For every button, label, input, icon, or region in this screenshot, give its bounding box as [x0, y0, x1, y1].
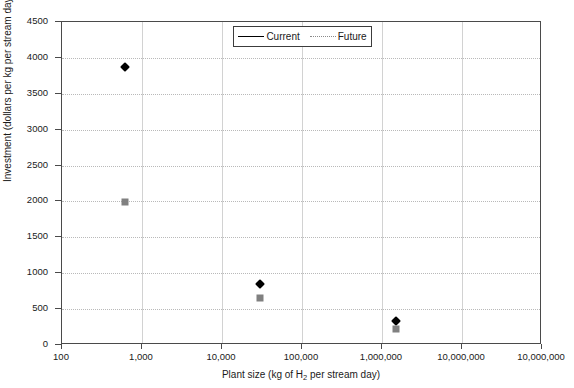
gridline-horizontal: [62, 94, 540, 95]
data-point-future: [393, 326, 400, 333]
data-point-future: [257, 295, 264, 302]
gridline-vertical: [302, 22, 303, 343]
x-axis-title-pre: Plant size (kg of H: [222, 369, 303, 380]
square-marker: [257, 295, 264, 302]
y-tick-label: 1000: [27, 267, 48, 277]
gridline-vertical: [142, 22, 143, 343]
y-tick-mark: [55, 272, 61, 273]
gridline-horizontal: [62, 166, 540, 167]
gridline-horizontal: [62, 273, 540, 274]
x-tick-label: 10,000: [206, 351, 235, 362]
gridline-horizontal: [62, 309, 540, 310]
gridline-vertical: [222, 22, 223, 343]
square-marker: [393, 326, 400, 333]
y-tick-label: 2500: [27, 160, 48, 170]
legend-label-current: Current: [266, 31, 299, 42]
x-tick-mark: [461, 344, 462, 349]
legend-line: [238, 36, 264, 37]
gridline-horizontal: [62, 58, 540, 59]
data-point-current: [121, 64, 128, 71]
legend-swatch-future: [310, 31, 336, 42]
data-point-future: [121, 199, 128, 206]
square-marker: [121, 199, 128, 206]
y-axis-title: Investment (dollars per kg per stream da…: [2, 0, 13, 182]
y-tick-mark: [55, 57, 61, 58]
y-tick-label: 3000: [27, 124, 48, 134]
x-axis-title: Plant size (kg of H2 per stream day): [61, 369, 541, 382]
gridline-horizontal: [62, 130, 540, 131]
x-axis-title-post: per stream day): [307, 369, 380, 380]
x-tick-label: 1,000,000: [360, 351, 402, 362]
x-tick-label: 100: [53, 351, 69, 362]
x-tick-mark: [541, 344, 542, 349]
x-tick-label: 10,000,000: [517, 351, 565, 362]
chart-legend: Current Future: [233, 26, 372, 47]
y-tick-label: 1500: [27, 231, 48, 241]
gridline-vertical: [462, 22, 463, 343]
legend-swatch-current: [238, 31, 264, 42]
data-point-current: [257, 281, 264, 288]
y-tick-mark: [55, 200, 61, 201]
y-tick-label: 4000: [27, 52, 48, 62]
legend-label-future: Future: [338, 31, 367, 42]
gridline-horizontal: [62, 237, 540, 238]
x-tick-mark: [301, 344, 302, 349]
diamond-marker: [120, 62, 130, 72]
x-tick-mark: [141, 344, 142, 349]
y-tick-label: 0: [43, 339, 48, 349]
gridline-vertical: [382, 22, 383, 343]
x-tick-mark: [61, 344, 62, 349]
x-tick-mark: [221, 344, 222, 349]
x-tick-label: 100,000: [284, 351, 318, 362]
legend-entry-future: Future: [310, 31, 367, 42]
legend-entry-current: Current: [238, 31, 299, 42]
y-tick-mark: [55, 93, 61, 94]
plot-area: [61, 21, 541, 344]
chart-figure: 4500 4000 3500 3000 2500 2000 1500 1000 …: [0, 0, 574, 388]
y-tick-mark: [55, 21, 61, 22]
legend-line: [310, 36, 336, 37]
gridline-horizontal: [62, 201, 540, 202]
diamond-marker: [255, 279, 265, 289]
y-tick-label: 500: [32, 303, 48, 313]
y-tick-mark: [55, 308, 61, 309]
y-tick-label: 3500: [27, 88, 48, 98]
x-tick-label: 1,000: [129, 351, 153, 362]
x-tick-mark: [381, 344, 382, 349]
y-tick-mark: [55, 165, 61, 166]
y-tick-label: 4500: [27, 16, 48, 26]
data-point-current: [393, 318, 400, 325]
y-tick-label: 2000: [27, 195, 48, 205]
x-tick-label: 10,000,000: [437, 351, 485, 362]
y-tick-mark: [55, 236, 61, 237]
y-tick-mark: [55, 129, 61, 130]
